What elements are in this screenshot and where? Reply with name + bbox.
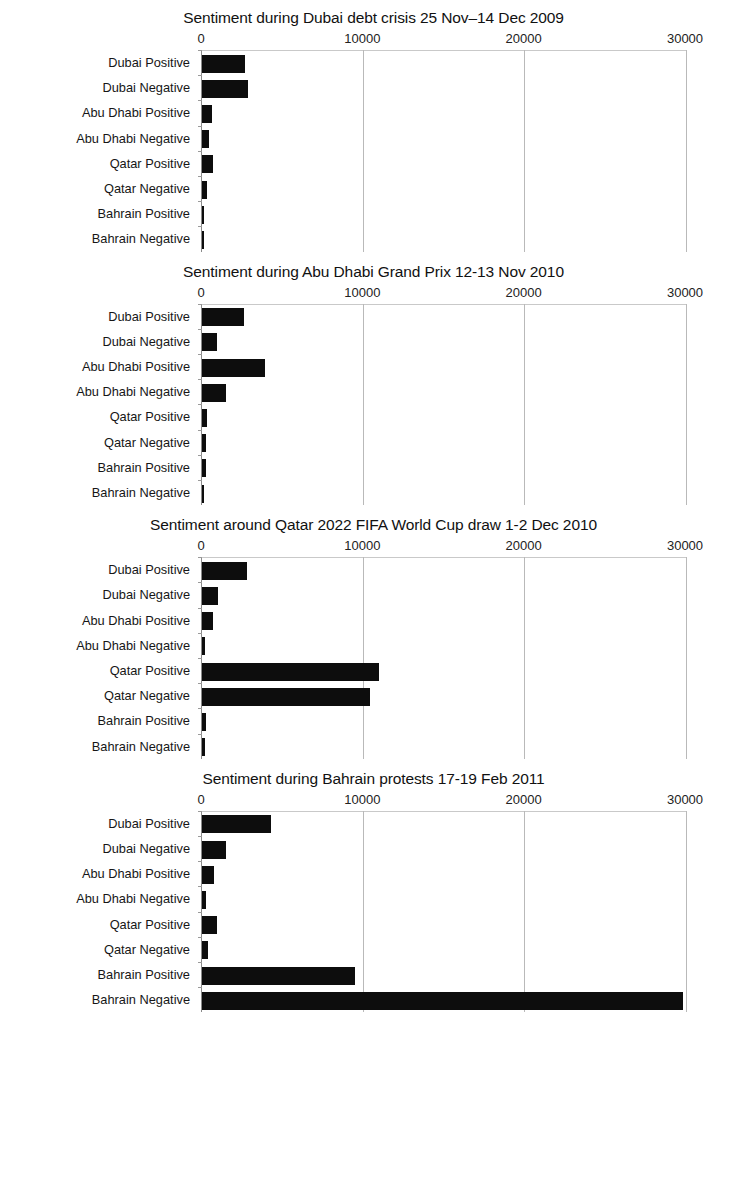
x-axis-tick-labels: 0100002000030000 [0,537,741,557]
y-tickmark [198,811,202,812]
category-label: Qatar Positive [0,658,196,683]
category-label: Qatar Negative [0,430,196,455]
bar-row [202,329,686,354]
bar-row [202,151,686,176]
chart-2: Sentiment during Abu Dhabi Grand Prix 12… [0,252,741,506]
category-label: Qatar Positive [0,912,196,937]
category-label: Dubai Negative [0,329,196,354]
bar [202,612,213,630]
bar [202,359,265,377]
bar-row [202,455,686,480]
x-tick-label: 10000 [344,537,380,555]
y-tickmark [198,658,202,659]
bar [202,155,213,173]
category-label: Dubai Positive [0,557,196,582]
bar [202,409,207,427]
bar-row [202,582,686,607]
bar [202,587,218,605]
bar [202,562,247,580]
plot-area [201,50,686,252]
bar [202,891,206,909]
category-label: Qatar Positive [0,151,196,176]
x-tick-label: 30000 [667,30,703,48]
y-tickmark [198,75,202,76]
y-tickmark [198,480,202,481]
bar-row [202,811,686,836]
bar [202,688,370,706]
bar [202,815,271,833]
x-tick-label: 20000 [506,284,542,302]
bar-row [202,430,686,455]
plot-wrapper: Dubai PositiveDubai NegativeAbu Dhabi Po… [0,304,741,506]
bar-row [202,683,686,708]
category-label: Dubai Negative [0,582,196,607]
category-label: Bahrain Positive [0,455,196,480]
y-tickmark [198,937,202,938]
bar-row [202,708,686,733]
y-tickmark [198,304,202,305]
category-label: Abu Dhabi Negative [0,886,196,911]
y-tickmark [198,633,202,634]
category-label: Abu Dhabi Negative [0,633,196,658]
y-tickmark [198,987,202,988]
chart-1: Sentiment during Dubai debt crisis 25 No… [0,0,741,252]
bar-row [202,912,686,937]
bar [202,738,205,756]
x-tick-label: 20000 [506,537,542,555]
bar-row [202,658,686,683]
y-tickmark [198,430,202,431]
x-tick-label: 0 [197,30,204,48]
category-label: Abu Dhabi Negative [0,126,196,151]
y-tickmark [198,404,202,405]
bar [202,231,204,249]
y-tickmark [198,329,202,330]
bar-row [202,987,686,1012]
bar [202,916,217,934]
bar-row [202,50,686,75]
figure-page: Sentiment during Dubai debt crisis 25 No… [0,0,741,1181]
bar [202,663,379,681]
x-tick-label: 0 [197,791,204,809]
y-tickmark [198,151,202,152]
category-label: Bahrain Positive [0,201,196,226]
bar-row [202,608,686,633]
x-tick-label: 20000 [506,30,542,48]
bar-row [202,886,686,911]
bar-row [202,937,686,962]
bar-row [202,379,686,404]
plot-wrapper: Dubai PositiveDubai NegativeAbu Dhabi Po… [0,557,741,759]
bar [202,130,209,148]
y-tickmark [198,608,202,609]
category-label: Abu Dhabi Positive [0,100,196,125]
category-label: Abu Dhabi Positive [0,861,196,886]
y-tickmark [198,557,202,558]
category-label: Dubai Positive [0,50,196,75]
y-tickmark [198,455,202,456]
category-label: Abu Dhabi Positive [0,608,196,633]
y-tickmark [198,582,202,583]
bar-row [202,354,686,379]
category-axis: Dubai PositiveDubai NegativeAbu Dhabi Po… [0,811,196,1013]
bar-row [202,480,686,505]
y-tickmark [198,912,202,913]
y-tickmark [198,861,202,862]
x-tick-label: 0 [197,284,204,302]
y-tickmark [198,176,202,177]
bar [202,459,206,477]
chart-4: Sentiment during Bahrain protests 17-19 … [0,759,741,1013]
bar [202,637,205,655]
bar-row [202,100,686,125]
category-label: Qatar Negative [0,937,196,962]
plot-wrapper: Dubai PositiveDubai NegativeAbu Dhabi Po… [0,50,741,252]
bar [202,967,355,985]
bar-row [202,201,686,226]
x-tick-label: 30000 [667,284,703,302]
chart-title: Sentiment during Bahrain protests 17-19 … [0,769,741,789]
bar [202,181,207,199]
x-tick-label: 30000 [667,791,703,809]
y-tickmark [198,734,202,735]
category-label: Abu Dhabi Positive [0,354,196,379]
y-tickmark [198,708,202,709]
bar-row [202,75,686,100]
y-tickmark [198,201,202,202]
